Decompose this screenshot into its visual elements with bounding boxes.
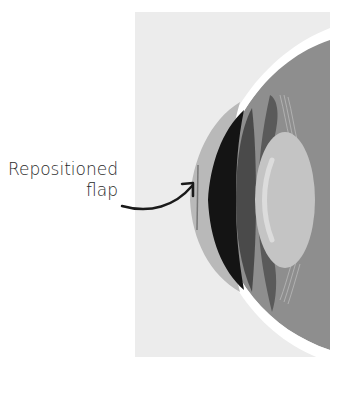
annotation-label-line2: flap bbox=[6, 180, 118, 200]
eye-diagram: Repositioned flap bbox=[0, 0, 346, 395]
annotation-label-line1: Repositioned bbox=[6, 159, 118, 179]
flap-line bbox=[197, 165, 198, 230]
